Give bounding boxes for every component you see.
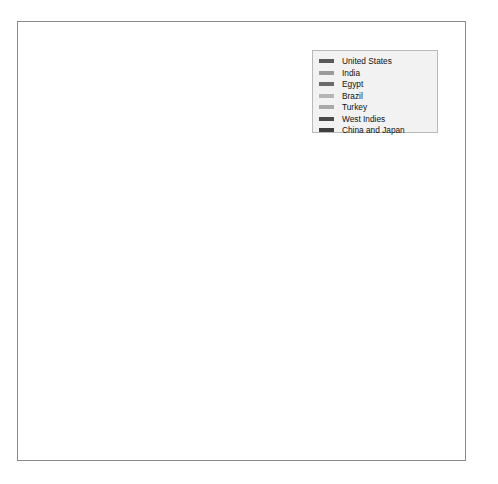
legend-item: Turkey xyxy=(319,102,431,113)
legend-swatch-icon xyxy=(319,117,334,121)
legend-swatch-icon xyxy=(319,82,334,86)
legend-swatch-icon xyxy=(319,128,334,132)
legend-item: United States xyxy=(319,56,431,67)
legend-item: Egypt xyxy=(319,79,431,90)
chart-legend: United StatesIndiaEgyptBrazilTurkeyWest … xyxy=(312,50,438,133)
legend-swatch-icon xyxy=(319,59,334,63)
legend-item: West Indies xyxy=(319,114,431,125)
legend-swatch-icon xyxy=(319,71,334,75)
legend-item: Brazil xyxy=(319,91,431,102)
legend-item: India xyxy=(319,68,431,79)
legend-swatch-icon xyxy=(319,105,334,109)
legend-item-label: Brazil xyxy=(342,91,363,101)
legend-swatch-icon xyxy=(319,94,334,98)
legend-item-label: Turkey xyxy=(342,102,367,112)
legend-item-label: West Indies xyxy=(342,114,385,124)
legend-item-label: China and Japan xyxy=(342,125,405,135)
legend-item-label: Egypt xyxy=(342,79,363,89)
legend-item-label: United States xyxy=(342,56,392,66)
legend-item: China and Japan xyxy=(319,125,431,136)
legend-item-label: India xyxy=(342,68,360,78)
chart-root: 0500100015002000250030003500400018601861… xyxy=(0,0,498,484)
